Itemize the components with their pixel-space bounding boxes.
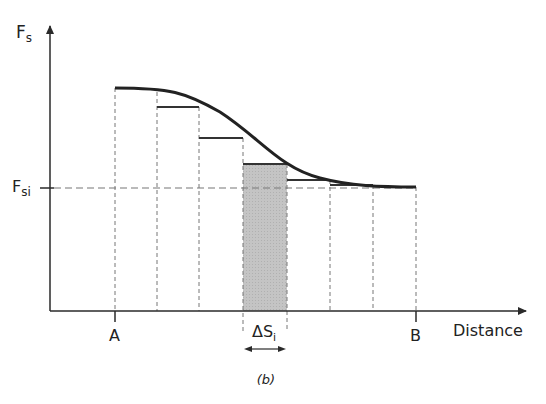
fsi-label: Fsi — [12, 177, 31, 199]
arrow-left-icon — [244, 346, 252, 352]
figure-caption: (b) — [257, 372, 275, 387]
diagram-canvas: Fs Fsi A B Distance ΔSi (b) — [0, 0, 546, 404]
delta-s-label: ΔSi — [252, 322, 276, 344]
point-a-label: A — [109, 326, 120, 345]
x-axis-label: Distance — [453, 321, 523, 340]
shaded-strip — [243, 164, 287, 311]
point-b-label: B — [410, 326, 421, 345]
arrow-right-icon — [278, 346, 286, 352]
y-axis-label: Fs — [16, 22, 32, 45]
